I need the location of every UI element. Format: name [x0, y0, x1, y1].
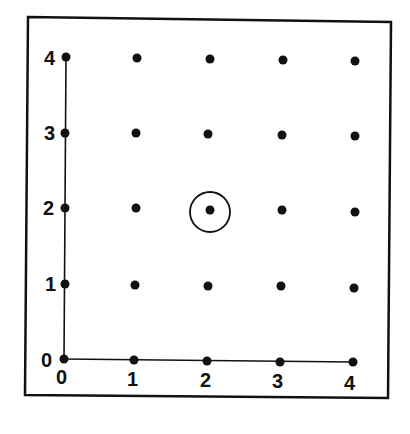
grid-point-1-1	[131, 281, 140, 290]
x-tick-label-0: 0	[56, 366, 67, 388]
grid-point-4-3	[351, 132, 360, 141]
grid-point-2-4	[206, 55, 215, 64]
grid-point-1-4	[133, 54, 142, 63]
grid-point-0-3	[61, 129, 70, 138]
x-tick-label-2: 2	[200, 369, 211, 391]
grid-point-0-4	[62, 53, 71, 62]
grid-point-4-4	[351, 57, 360, 66]
grid-point-2-0	[203, 357, 212, 366]
grid-point-4-2	[351, 208, 360, 217]
lattice-diagram: 4 3 2 1 0 0 1 2 3 4	[0, 0, 410, 434]
grid-point-2-1	[204, 282, 213, 291]
grid-point-4-1	[350, 284, 359, 293]
grid-point-0-2	[61, 204, 70, 213]
grid-point-3-2	[278, 206, 287, 215]
x-tick-label-1: 1	[127, 368, 138, 390]
y-tick-label-1: 1	[45, 273, 56, 295]
grid-point-3-4	[279, 56, 288, 65]
y-tick-label-0: 0	[41, 349, 52, 371]
y-tick-label-2: 2	[43, 197, 54, 219]
grid-point-1-3	[132, 129, 141, 138]
grid-point-1-2	[132, 204, 141, 213]
grid-point-2-2	[206, 206, 215, 215]
grid-point-1-0	[130, 356, 139, 365]
grid-point-2-3	[204, 130, 213, 139]
y-tick-label-3: 3	[44, 122, 55, 144]
grid-point-3-3	[278, 131, 287, 140]
grid-point-4-0	[349, 358, 358, 367]
grid-point-0-1	[61, 280, 70, 289]
grid-point-0-0	[60, 355, 69, 364]
x-tick-label-4: 4	[344, 372, 356, 394]
y-tick-label-4: 4	[44, 47, 56, 69]
x-tick-label-3: 3	[272, 370, 283, 392]
grid-point-3-1	[277, 282, 286, 291]
grid-point-3-0	[276, 358, 285, 367]
